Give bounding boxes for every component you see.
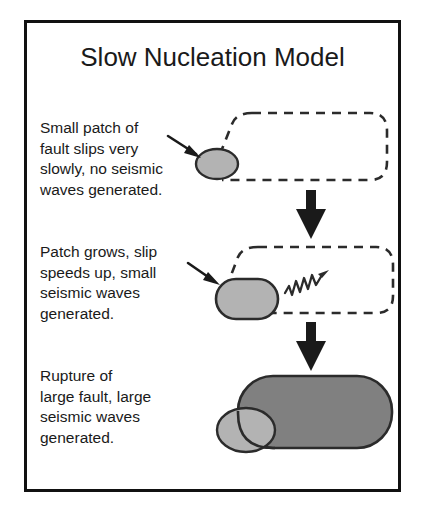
stage-2-caption: Patch grows, slip speeds up, small seism… xyxy=(40,242,190,324)
stage-1-caption: Small patch of fault slips very slowly, … xyxy=(40,118,190,200)
page-title: Slow Nucleation Model xyxy=(24,40,401,74)
figure-canvas: Slow Nucleation Model Small patch of fau… xyxy=(0,0,426,509)
stage-3-caption: Rupture of large fault, large seismic wa… xyxy=(40,366,200,448)
